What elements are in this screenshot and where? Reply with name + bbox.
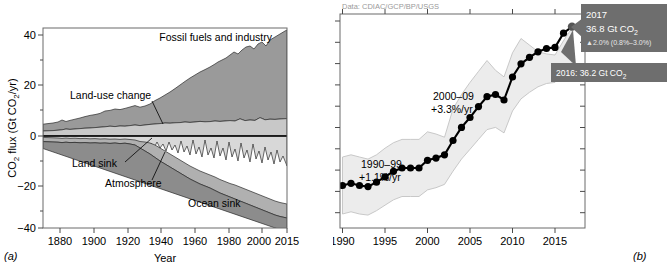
callout-2017-change: ▲2.0% (0.8%–3.0%) (586, 39, 651, 47)
panel-b-x-ticks (343, 228, 556, 233)
panel-a-ytick-neg20: −20 (17, 180, 36, 192)
annotation-2000s-rate: +3.3%/yr (431, 103, 473, 115)
panel-b-xtick-2005: 2005 (458, 235, 482, 247)
panel-a-xtick-1980: 1980 (217, 235, 241, 247)
panel-a-ytick-20: 20 (24, 79, 36, 91)
annotation-1990s-rate: +1.1%/yr (359, 171, 401, 183)
panel-a-xtick-1900: 1900 (82, 235, 106, 247)
panel-a-xtick-1940: 1940 (149, 235, 173, 247)
panel-a-ytick-0: 0 (30, 130, 36, 142)
panel-b-xtick-2015: 2015 (543, 235, 567, 247)
panel-b-xtick-1990: 1990 (333, 235, 355, 247)
panel-a-xtick-1880: 1880 (48, 235, 72, 247)
callout-2017[interactable]: 2017 36.8 Gt CO2 ▲2.0% (0.8%–3.0%) (571, 4, 667, 52)
annotation-2000s-period: 2000–09 (433, 90, 474, 102)
panel-b-co2-emissions: Data: CDIAC/GCP/BP/USGS (333, 0, 667, 270)
label-ocean-sink: Ocean sink (188, 197, 241, 209)
label-atmosphere: Atmosphere (105, 177, 162, 189)
panel-b-xtick-1995: 1995 (373, 235, 397, 247)
panel-a-xtick-2015: 2015 (275, 235, 299, 247)
panel-a-xtick-1960: 1960 (183, 235, 207, 247)
panel-b-y-ticks (335, 21, 340, 213)
panel-b-svg: Data: CDIAC/GCP/BP/USGS (333, 0, 667, 270)
panel-a-x-ticks (60, 228, 287, 233)
figure-root: 40 20 0 −20 −40 1880 1900 1920 1940 1960… (0, 0, 667, 270)
label-land-use-change: Land-use change (70, 89, 151, 101)
panel-a-svg: 40 20 0 −20 −40 1880 1900 1920 1940 1960… (0, 0, 334, 270)
panel-a-ylabel-part2: flux (Gt CO (6, 98, 18, 157)
panel-a-ytick-40: 40 (24, 29, 36, 41)
panel-b-xtick-2000: 2000 (415, 235, 439, 247)
annotation-1990s-period: 1990–99 (361, 158, 402, 170)
panel-a-letter: (a) (4, 250, 17, 262)
panel-a-ylabel-part3: /yr) (6, 78, 18, 94)
panel-a-ytick-neg40: −40 (17, 222, 36, 234)
svg-text:CO2 flux (Gt CO2/yr): CO2 flux (Gt CO2/yr) (6, 78, 21, 177)
panel-a-ylabel: CO2 flux (Gt CO2/yr) (6, 78, 21, 177)
panel-b-letter: (b) (633, 250, 646, 262)
panel-a-co2-flux: 40 20 0 −20 −40 1880 1900 1920 1940 1960… (0, 0, 334, 270)
panel-a-y-ticks (38, 35, 43, 228)
panel-a-xtick-2000: 2000 (247, 235, 271, 247)
panel-a-ylabel-part1: CO (6, 161, 18, 178)
panel-b-data-source: Data: CDIAC/GCP/BP/USGS (342, 2, 439, 11)
panel-a-xtick-1920: 1920 (116, 235, 140, 247)
label-land-sink: Land sink (72, 157, 118, 169)
callout-2017-year: 2017 (586, 9, 607, 20)
panel-b-xtick-2010: 2010 (500, 235, 524, 247)
panel-a-xlabel: Year (154, 252, 177, 264)
label-fossil-fuels: Fossil fuels and industry (159, 31, 272, 43)
